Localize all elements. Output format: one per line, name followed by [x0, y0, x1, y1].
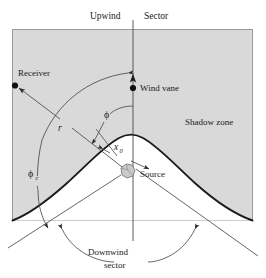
figure-container: Upwind Sector Receiver Wind vane Shadow …	[0, 0, 266, 278]
source-blob	[121, 164, 135, 178]
title-upwind: Upwind	[90, 11, 121, 21]
downwind-label-line2: sector	[104, 260, 126, 270]
downwind-label-line1: Downwind	[88, 247, 128, 257]
receiver-label: Receiver	[18, 68, 50, 78]
angle-phi-label: ϕ	[104, 109, 109, 120]
critical-angle-label: ϕ	[28, 168, 33, 179]
critical-angle-subscript-label: c	[36, 174, 39, 181]
receiver-dot	[12, 82, 18, 88]
range-symbol-label: r	[58, 123, 62, 133]
diagram-svg: Upwind Sector Receiver Wind vane Shadow …	[0, 0, 266, 278]
title-sector: Sector	[144, 11, 169, 21]
shadow-zone-label: Shadow zone	[185, 117, 233, 127]
wind-vane-dot	[130, 85, 136, 91]
downwind-sector-arc	[62, 229, 195, 262]
source-label: Source	[140, 169, 165, 179]
offset-symbol-label: x	[113, 142, 119, 152]
wind-vane-label: Wind vane	[140, 83, 179, 93]
